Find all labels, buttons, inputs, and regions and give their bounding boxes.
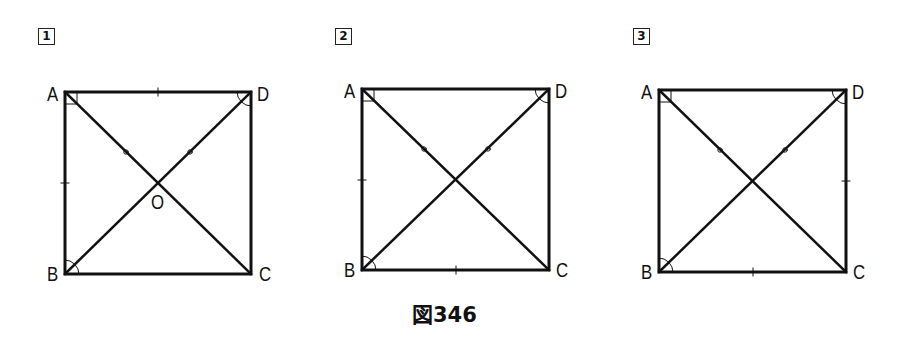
center-label-o: O <box>151 190 164 214</box>
figure-number-1: 1 <box>38 28 55 45</box>
vertex-label-b: B <box>344 258 355 282</box>
vertex-label-c: C <box>853 260 865 284</box>
figure-caption: 図346 <box>412 298 477 328</box>
square-3 <box>659 90 850 276</box>
vertex-label-b: B <box>47 262 58 286</box>
vertex-label-a: A <box>47 82 58 106</box>
vertex-label-a: A <box>344 79 355 103</box>
vertex-label-d: D <box>555 79 567 103</box>
figure-number-2: 2 <box>335 28 352 45</box>
figure-number-3: 3 <box>633 28 650 45</box>
vertex-label-d: D <box>257 82 269 106</box>
vertex-label-c: C <box>556 258 568 282</box>
vertex-label-b: B <box>641 260 652 284</box>
diagram-canvas: 1 2 3 A D B C O A D B C A D B C 図346 <box>0 0 897 350</box>
vertex-label-d: D <box>852 80 864 104</box>
vertex-label-a: A <box>641 80 652 104</box>
square-1 <box>61 88 251 274</box>
vertex-label-c: C <box>259 262 271 286</box>
square-2 <box>358 89 549 274</box>
